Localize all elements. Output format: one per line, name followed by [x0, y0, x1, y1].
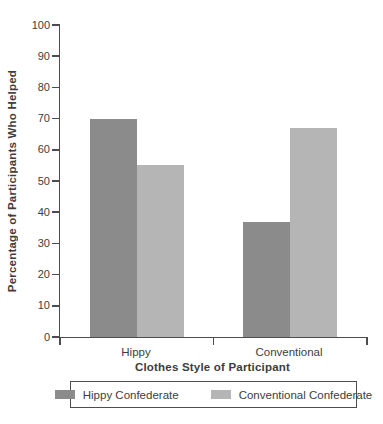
- y-tick-100: [52, 24, 60, 26]
- y-tick-30: [52, 243, 60, 245]
- x-tick-1: [213, 337, 215, 345]
- x-tick-2: [366, 337, 368, 345]
- bar-chart-figure: Percentage of Participants Who Helped 01…: [0, 0, 383, 424]
- y-tick-20: [52, 274, 60, 276]
- legend-swatch-hippy-confederate: [55, 390, 75, 399]
- y-tick-label-0: 0: [14, 331, 50, 344]
- legend-label-conventional-confederate: Conventional Confederate: [239, 389, 373, 401]
- y-tick-label-70: 70: [14, 112, 50, 125]
- y-tick-10: [52, 305, 60, 307]
- x-axis-title: Clothes Style of Participant: [59, 361, 366, 373]
- y-tick-label-30: 30: [14, 237, 50, 250]
- bar-hippy-conventional-confederate: [137, 165, 184, 337]
- x-tick-0: [59, 337, 61, 345]
- y-tick-label-40: 40: [14, 206, 50, 219]
- y-tick-label-60: 60: [14, 143, 50, 156]
- y-tick-90: [52, 55, 60, 57]
- y-tick-70: [52, 118, 60, 120]
- bar-hippy-hippy-confederate: [90, 119, 137, 337]
- y-tick-label-20: 20: [14, 268, 50, 281]
- y-tick-80: [52, 87, 60, 89]
- legend-label-hippy-confederate: Hippy Confederate: [83, 389, 179, 401]
- y-tick-60: [52, 149, 60, 151]
- bar-conventional-conventional-confederate: [290, 128, 337, 337]
- plot-area: 0102030405060708090100: [59, 25, 367, 338]
- legend-item-hippy-confederate: Hippy Confederate: [55, 389, 179, 401]
- y-tick-label-90: 90: [14, 50, 50, 63]
- x-category-label-conventional: Conventional: [255, 346, 322, 358]
- legend: Hippy Confederate Conventional Confedera…: [70, 381, 357, 408]
- x-category-label-hippy: Hippy: [121, 346, 150, 358]
- legend-item-conventional-confederate: Conventional Confederate: [211, 389, 373, 401]
- y-tick-50: [52, 180, 60, 182]
- bar-conventional-hippy-confederate: [243, 222, 290, 337]
- y-tick-label-50: 50: [14, 175, 50, 188]
- legend-swatch-conventional-confederate: [211, 390, 231, 399]
- y-tick-label-10: 10: [14, 299, 50, 312]
- y-tick-label-80: 80: [14, 81, 50, 94]
- y-tick-label-100: 100: [14, 19, 50, 32]
- y-tick-40: [52, 211, 60, 213]
